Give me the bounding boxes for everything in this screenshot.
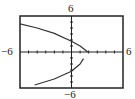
curve-lower-branch <box>35 59 84 85</box>
curve-upper-branch <box>20 24 88 52</box>
graph-plot <box>0 0 135 99</box>
